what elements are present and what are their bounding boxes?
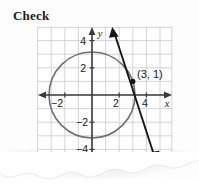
y-tick-label-4: 4 bbox=[80, 35, 86, 47]
y-tick-label--2: −2 bbox=[76, 116, 88, 128]
point-marker-3-1 bbox=[130, 79, 135, 84]
y-axis-label: y bbox=[97, 28, 103, 39]
y-tick-label-2: 2 bbox=[80, 62, 86, 74]
point-annotation-label: (3, 1) bbox=[137, 68, 163, 80]
x-tick-label-4: 4 bbox=[142, 97, 148, 109]
x-tick-label--2: −2 bbox=[51, 97, 63, 109]
x-tick-label-2: 2 bbox=[113, 97, 119, 109]
torn-paper-edge bbox=[0, 152, 199, 196]
x-axis-label: x bbox=[164, 98, 170, 109]
figure-page: Check bbox=[0, 0, 199, 196]
